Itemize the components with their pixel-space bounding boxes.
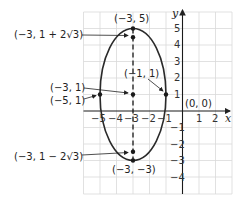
label-center: (−3, 1) — [50, 82, 85, 93]
label-focus-lower: (−3, 1 − 2√3) — [14, 151, 83, 162]
y-axis-label: y — [171, 7, 179, 20]
svg-text:−4: −4 — [108, 113, 123, 124]
point-center — [131, 92, 135, 96]
svg-text:5: 5 — [174, 23, 180, 34]
point-focus-upper — [131, 35, 135, 39]
svg-text:2: 2 — [212, 113, 218, 124]
label-origin: (0, 0) — [185, 98, 212, 109]
label-focus-upper: (−3, 1 + 2√3) — [14, 29, 83, 40]
point-top-vertex — [131, 26, 135, 30]
label-left-vertex: (−5, 1) — [50, 95, 85, 106]
arrow-focus-lower — [82, 153, 128, 156]
arrow-center — [84, 88, 128, 93]
svg-text:−1: −1 — [170, 122, 185, 133]
svg-text:2: 2 — [174, 72, 180, 83]
arrow-left-vertex — [84, 96, 96, 100]
arrow-right-vertex — [148, 79, 163, 91]
svg-text:−3: −3 — [124, 113, 139, 124]
svg-text:−2: −2 — [141, 113, 156, 124]
svg-text:1: 1 — [174, 89, 180, 100]
point-bottom-vertex — [131, 158, 135, 162]
label-right-vertex: (−1, 1) — [124, 68, 159, 79]
label-top-vertex: (−3, 5) — [114, 13, 149, 24]
x-axis-label: x — [225, 112, 232, 125]
label-bottom-vertex: (−3, −3) — [112, 164, 156, 175]
svg-text:1: 1 — [196, 113, 202, 124]
svg-text:−2: −2 — [170, 139, 185, 150]
svg-text:−3: −3 — [170, 155, 185, 166]
x-tick-labels: −5 −4 −3 −2 −1 1 2 — [91, 113, 218, 124]
ellipse-diagram: x y −5 −4 −3 −2 −1 1 2 5 4 3 2 1 −1 −2 −… — [0, 0, 243, 207]
svg-text:3: 3 — [174, 56, 180, 67]
arrow-focus-upper — [82, 35, 128, 36]
point-right-vertex — [164, 92, 168, 96]
point-focus-lower — [131, 150, 135, 154]
point-left-vertex — [98, 92, 102, 96]
svg-text:−4: −4 — [170, 172, 185, 183]
svg-text:4: 4 — [174, 39, 180, 50]
